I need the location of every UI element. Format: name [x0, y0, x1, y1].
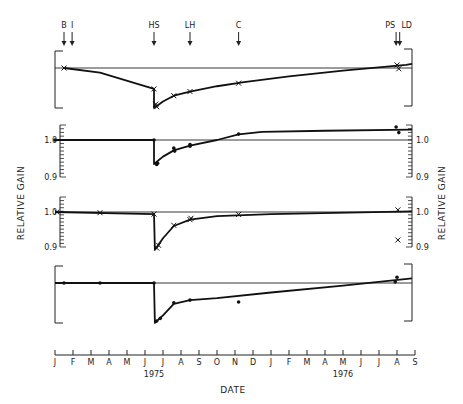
- event-marker-ps: PS: [385, 21, 398, 46]
- arrow-head-icon: [152, 41, 157, 46]
- left-bracket: [55, 51, 63, 108]
- x-tick-label: M: [124, 358, 131, 367]
- x-tick-label: F: [71, 358, 76, 367]
- event-marker-ld: LD: [397, 21, 412, 46]
- y-axis-label-left: RELATIVE GAIN: [16, 166, 26, 241]
- x-tick-label: A: [106, 358, 112, 367]
- dot-marker-icon: [152, 138, 156, 142]
- y-tick-label: 0.9: [416, 173, 429, 182]
- arrow-head-icon: [70, 41, 75, 46]
- data-curve: [64, 64, 412, 108]
- x-marker-icon: [395, 238, 400, 243]
- dot-marker-icon: [53, 138, 57, 142]
- event-markers: BIHSLHCPSLD: [61, 21, 412, 46]
- x-tick-label: J: [377, 358, 380, 367]
- dot-marker-icon: [188, 144, 192, 148]
- event-label: LD: [401, 21, 412, 30]
- data-curve: [55, 130, 412, 164]
- event-label: HS: [148, 21, 159, 30]
- x-tick-label: A: [322, 358, 328, 367]
- dot-marker-icon: [156, 162, 160, 166]
- dot-marker-icon: [172, 301, 176, 305]
- x-tick-label: D: [250, 358, 256, 367]
- panel-3: 1.01.00.90.9: [44, 197, 428, 252]
- panel-2: 1.01.00.90.9: [44, 125, 428, 182]
- event-marker-c: C: [236, 21, 242, 46]
- x-tick-label: J: [269, 358, 272, 367]
- x-tick-label: M: [340, 358, 347, 367]
- arrow-head-icon: [188, 41, 193, 46]
- dot-marker-icon: [152, 281, 156, 285]
- x-axis-label: DATE: [220, 385, 245, 395]
- panel-1: [55, 49, 412, 109]
- x-tick-label: M: [88, 358, 95, 367]
- dot-marker-icon: [237, 132, 241, 136]
- x-tick-label: J: [359, 358, 362, 367]
- x-tick-label: J: [143, 358, 146, 367]
- x-tick-label: A: [178, 358, 184, 367]
- data-curve: [55, 211, 412, 250]
- x-tick-label: N: [232, 358, 238, 367]
- x-tick-label: F: [287, 358, 292, 367]
- y-tick-label: 1.0: [416, 208, 429, 217]
- y-axis-label-right: RELATIVE GAIN: [437, 166, 447, 241]
- event-label: LH: [185, 21, 195, 30]
- event-label: C: [236, 21, 242, 30]
- x-tick-label: S: [412, 358, 417, 367]
- chart-panels: 1.01.00.90.91.01.00.90.9: [44, 49, 428, 323]
- y-tick-label: 0.9: [44, 173, 57, 182]
- year-label: 1975: [144, 370, 164, 379]
- dot-marker-icon: [62, 281, 66, 285]
- y-tick-label: 1.0: [416, 136, 429, 145]
- x-tick-label: A: [394, 358, 400, 367]
- dot-marker-icon: [394, 125, 398, 129]
- y-tick-label: 0.9: [44, 243, 57, 252]
- dot-marker-icon: [173, 149, 177, 153]
- x-tick-label: J: [53, 358, 56, 367]
- x-axis: JFMAMJJASONDJFMAMJJAS19751976: [53, 350, 418, 379]
- right-bracket: [404, 264, 412, 321]
- left-bracket: [55, 266, 63, 323]
- arrow-head-icon: [62, 41, 67, 46]
- dot-marker-icon: [98, 281, 102, 285]
- event-marker-b: B: [61, 21, 67, 46]
- dot-marker-icon: [188, 298, 192, 302]
- data-curve: [55, 278, 412, 322]
- y-tick-label: 0.9: [416, 243, 429, 252]
- x-tick-label: M: [304, 358, 311, 367]
- relative-gain-chart: BIHSLHCPSLD 1.01.00.90.91.01.00.90.9 JFM…: [0, 0, 463, 404]
- year-label: 1976: [333, 370, 353, 379]
- event-label: PS: [385, 21, 395, 30]
- x-tick-label: J: [161, 358, 164, 367]
- x-tick-label: O: [214, 358, 220, 367]
- event-label: I: [71, 21, 73, 30]
- dot-marker-icon: [397, 131, 401, 135]
- dot-marker-icon: [159, 317, 163, 321]
- x-tick-label: S: [196, 358, 201, 367]
- event-label: B: [61, 21, 67, 30]
- event-marker-i: I: [70, 21, 75, 46]
- panel-4: [55, 264, 412, 323]
- dot-marker-icon: [155, 319, 159, 323]
- dot-marker-icon: [237, 300, 241, 304]
- event-marker-lh: LH: [185, 21, 195, 46]
- right-bracket: [404, 49, 412, 106]
- arrow-head-icon: [236, 41, 241, 46]
- arrow-head-icon: [397, 41, 402, 46]
- dot-marker-icon: [393, 280, 397, 284]
- event-marker-hs: HS: [148, 21, 159, 46]
- dot-marker-icon: [395, 276, 399, 280]
